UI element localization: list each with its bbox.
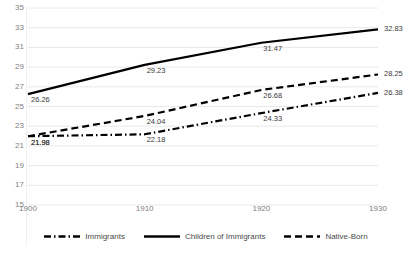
- x-tick-label: 1900: [19, 205, 37, 213]
- legend-item-native-born[interactable]: Native-Born: [283, 232, 367, 241]
- legend-item-label: Immigrants: [85, 232, 125, 241]
- x-tick-label: 1920: [252, 205, 270, 213]
- chart-legend: ImmigrantsChildren of ImmigrantsNative-B…: [0, 226, 411, 246]
- legend-item-immigrants[interactable]: Immigrants: [43, 232, 125, 241]
- line-chart: 3533312927252321191715 1900191019201930 …: [0, 0, 411, 256]
- legend-line-swatch: [283, 232, 321, 241]
- legend-item-children-of-immigrants[interactable]: Children of Immigrants: [143, 232, 265, 241]
- legend-item-label: Native-Born: [325, 232, 367, 241]
- x-tick-label: 1930: [369, 205, 387, 213]
- legend-line-swatch: [43, 232, 81, 241]
- legend-line-swatch: [143, 232, 181, 241]
- legend-item-label: Children of Immigrants: [185, 232, 265, 241]
- x-tick-label: 1910: [136, 205, 154, 213]
- x-axis: 1900191019201930: [0, 0, 411, 256]
